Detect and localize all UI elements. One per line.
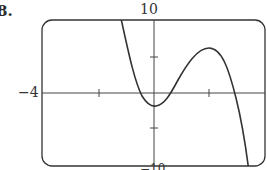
- graph-plot: [0, 0, 267, 170]
- function-curve: [120, 14, 249, 170]
